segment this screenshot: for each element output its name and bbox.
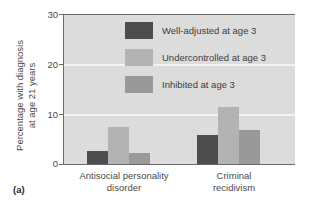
x-tick-label-recidivism: Criminal recidivism: [182, 170, 286, 193]
y-axis-tick-labels: 30 20 10 0: [34, 0, 58, 211]
chart-legend: Well-adjusted at age 3 Undercontrolled a…: [125, 19, 295, 100]
y-tick-label-0: 0: [36, 158, 58, 169]
legend-label-undercontrolled: Undercontrolled at age 3: [162, 52, 266, 63]
legend-label-inhibited: Inhibited at age 3: [162, 79, 235, 90]
legend-swatch-undercontrolled: [125, 49, 153, 66]
bar-antisocial-undercontrolled[interactable]: [108, 127, 129, 164]
bar-antisocial-inhibited[interactable]: [129, 153, 150, 164]
legend-swatch-well-adjusted: [125, 22, 153, 39]
legend-item-inhibited[interactable]: Inhibited at age 3: [125, 73, 295, 95]
legend-swatch-inhibited: [125, 76, 153, 93]
legend-item-well-adjusted[interactable]: Well-adjusted at age 3: [125, 19, 295, 41]
x-tick-label-antisocial: Antisocial personality disorder: [64, 170, 184, 193]
bar-recidivism-undercontrolled[interactable]: [218, 107, 239, 164]
y-tick-label-10: 10: [36, 109, 58, 120]
legend-label-well-adjusted: Well-adjusted at age 3: [162, 25, 256, 36]
bar-antisocial-well-adjusted[interactable]: [87, 151, 108, 164]
legend-item-undercontrolled[interactable]: Undercontrolled at age 3: [125, 46, 295, 68]
x-axis-line: [63, 164, 295, 165]
gridline-10: [64, 114, 295, 116]
plot-area: Well-adjusted at age 3 Undercontrolled a…: [64, 14, 295, 164]
bar-recidivism-well-adjusted[interactable]: [197, 135, 218, 164]
bar-recidivism-inhibited[interactable]: [239, 130, 260, 164]
y-tick-label-30: 30: [36, 9, 58, 20]
y-tick-label-20: 20: [36, 59, 58, 70]
panel-caption: (a): [13, 184, 25, 195]
figure-panel-a: Percentage with diagnosis at age 21 year…: [0, 0, 315, 211]
